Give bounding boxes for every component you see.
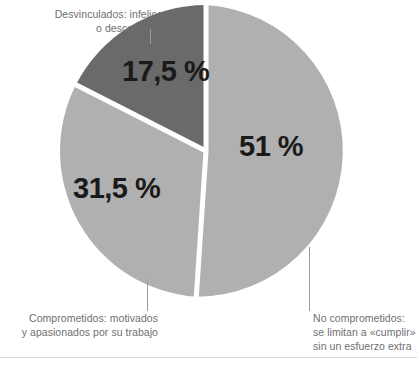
- callout-no-comprometidos: No comprometidos: se limitan a «cumplir»…: [313, 311, 417, 354]
- percent-label-comprometidos: 31,5 %: [73, 172, 160, 205]
- callout-desvinculados: Desvinculados: infelices o descontentos: [8, 7, 168, 35]
- footer-rule: [0, 357, 417, 358]
- pie-chart-figure: Desvinculados: infelices o descontentos …: [0, 0, 417, 365]
- percent-label-no-comprometidos: 51 %: [239, 130, 303, 163]
- percent-label-desvinculados: 17,5 %: [122, 55, 209, 88]
- callout-comprometidos: Comprometidos: motivados y apasionados p…: [16, 311, 158, 339]
